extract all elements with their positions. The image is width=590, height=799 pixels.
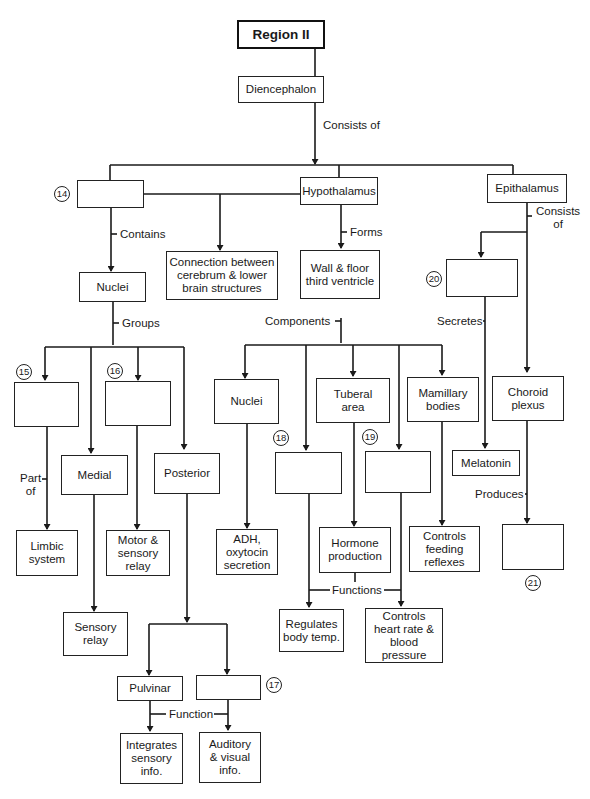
blank-answer-box-19[interactable]	[365, 451, 431, 493]
connection-box: Connection between cerebrum & lower brai…	[166, 251, 278, 300]
controls-feeding-box: Controls feeding reflexes	[409, 526, 480, 572]
blank-number-18: 18	[273, 430, 289, 446]
melatonin-box: Melatonin	[452, 450, 520, 476]
blank-number-15: 15	[16, 364, 32, 380]
edge-label-consists-of-epithalamus: Consists of	[535, 205, 581, 231]
mamillary-bodies-box: Mamillary bodies	[407, 377, 479, 422]
blank-answer-box-16[interactable]	[105, 381, 171, 426]
thalamus-nuclei-box: Nuclei	[79, 272, 146, 302]
blank-answer-box-17[interactable]	[196, 675, 261, 700]
auditory-visual-info-box: Auditory & visual info.	[199, 732, 261, 783]
edge-label-consists-of: Consists of	[322, 119, 381, 132]
integrates-sensory-info-box: Integrates sensory info.	[120, 733, 183, 784]
blank-answer-box-14[interactable]	[77, 180, 144, 208]
edge-label-contains: Contains	[119, 228, 166, 241]
blank-number-14: 14	[54, 186, 70, 202]
motor-sensory-relay-box: Motor & sensory relay	[106, 530, 170, 576]
medial-box: Medial	[61, 455, 128, 495]
wall-floor-box: Wall & floor third ventricle	[300, 250, 380, 299]
hormone-production-box: Hormone production	[319, 527, 391, 573]
limbic-system-box: Limbic system	[16, 530, 78, 576]
edge-label-components: Components	[264, 315, 331, 328]
blank-number-16: 16	[107, 363, 123, 379]
blank-number-19: 19	[362, 429, 378, 445]
tuberal-area-box: Tuberal area	[316, 378, 390, 423]
edge-label-secretes: Secretes	[436, 315, 483, 328]
choroid-plexus-box: Choroid plexus	[492, 376, 564, 421]
epithalamus-box: Epithalamus	[487, 174, 567, 203]
controls-heart-rate-box: Controls heart rate & blood pressure	[365, 608, 443, 663]
hypothalamus-nuclei-box: Nuclei	[214, 379, 279, 424]
blank-answer-box-18[interactable]	[275, 452, 342, 494]
blank-answer-box-21[interactable]	[502, 524, 564, 570]
concept-map: Region II Diencephalon Consists of 14 Hy…	[0, 0, 590, 799]
region-title-box: Region II	[237, 20, 325, 49]
hypothalamus-box: Hypothalamus	[300, 177, 378, 205]
edge-label-forms: Forms	[349, 226, 384, 239]
diencephalon-box: Diencephalon	[238, 76, 324, 103]
pulvinar-box: Pulvinar	[117, 676, 183, 701]
blank-answer-box-20[interactable]	[446, 259, 518, 297]
blank-number-17: 17	[266, 677, 282, 693]
blank-number-20: 20	[426, 271, 442, 287]
adh-oxytocin-box: ADH, oxytocin secretion	[216, 529, 278, 575]
blank-number-21: 21	[525, 575, 541, 591]
edge-label-part-of: Part of	[19, 472, 42, 498]
edge-label-functions: Functions	[331, 584, 383, 597]
edge-label-function: Function	[168, 708, 214, 721]
posterior-box: Posterior	[154, 453, 220, 494]
edge-label-produces: Produces	[474, 488, 525, 501]
sensory-relay-box: Sensory relay	[63, 612, 128, 656]
edge-label-groups: Groups	[121, 317, 161, 330]
blank-answer-box-15[interactable]	[14, 382, 79, 427]
regulates-body-temp-box: Regulates body temp.	[279, 609, 344, 652]
